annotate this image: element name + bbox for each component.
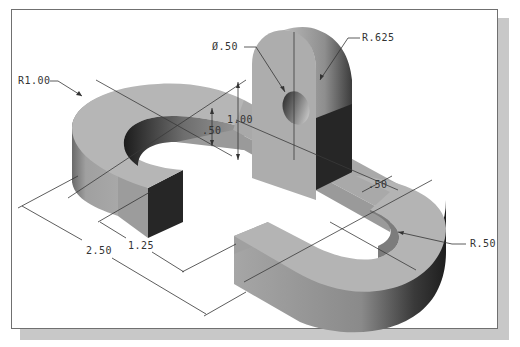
dim-label-50-width: .50 [368,179,388,190]
dim-label-dia: Ø.50 [212,41,238,52]
dim-label-100: 1.00 [227,114,253,125]
dim-label-125: 1.25 [128,240,154,251]
dim-label-250: 2.50 [86,245,112,256]
dim-line-250-b [112,258,206,314]
ext-line-125-b [182,244,236,272]
dim-line-250-a [22,206,82,240]
dim-line-125-a [100,222,126,238]
ext-line-250-a [18,176,78,208]
dim-label-r1: R1.00 [18,75,51,86]
dim-label-r50: R.50 [470,238,496,249]
dim-line-125-b [152,252,184,272]
arrow-100-top [236,82,240,88]
isometric-part-drawing: R1.00 Ø.50 R.625 1.00 .50 .50 R.50 2.50 … [0,0,520,347]
arrow-r1 [76,91,82,96]
dim-label-50-vert: .50 [202,125,222,136]
ext-line-250-b [204,292,246,316]
dim-label-r625: R.625 [362,32,395,43]
